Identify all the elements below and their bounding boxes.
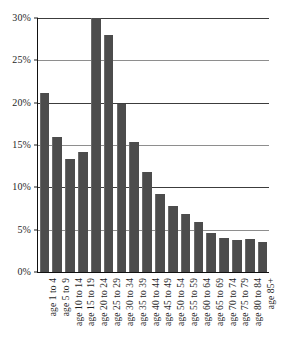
bar[interactable] <box>129 142 139 272</box>
x-tick: age 35 to 39 <box>129 278 140 364</box>
y-tick-label: 0% <box>17 267 31 277</box>
bars-series <box>38 18 269 272</box>
x-axis-line <box>37 272 269 273</box>
x-tick: age 5 to 9 <box>52 278 63 364</box>
x-tick: age 25 to 29 <box>103 278 114 364</box>
x-tick: age 20 to 24 <box>90 278 101 364</box>
bar[interactable] <box>91 18 101 272</box>
y-tick-label: 25% <box>12 55 31 65</box>
x-axis: age 1 to 4age 5 to 9age 10 to 14age 15 t… <box>38 276 269 364</box>
y-tick-label: 20% <box>12 98 31 108</box>
x-tick: age 60 to 64 <box>193 278 204 364</box>
plot-area <box>38 18 269 272</box>
x-tick: age 70 to 74 <box>219 278 230 364</box>
x-tick: age 30 to 34 <box>116 278 127 364</box>
bar-chart: 0%5%10%15%20%25%30% age 1 to 4age 5 to 9… <box>0 0 284 364</box>
x-tick: age 85+ <box>257 278 268 364</box>
bar[interactable] <box>206 233 216 272</box>
y-tick-label: 5% <box>17 225 31 235</box>
x-tick: age 15 to 19 <box>77 278 88 364</box>
bar[interactable] <box>194 222 204 272</box>
y-tick-label: 15% <box>12 140 31 150</box>
bar[interactable] <box>219 238 229 272</box>
bar[interactable] <box>52 137 62 272</box>
bar[interactable] <box>65 159 75 272</box>
x-tick: age 10 to 14 <box>65 278 76 364</box>
bar[interactable] <box>181 214 191 272</box>
x-tick: age 55 to 59 <box>180 278 191 364</box>
x-tick: age 40 to 44 <box>142 278 153 364</box>
bar[interactable] <box>258 242 268 272</box>
x-tick: age 75 to 79 <box>231 278 242 364</box>
bar[interactable] <box>78 152 88 272</box>
x-tick: age 45 to 49 <box>154 278 165 364</box>
bar[interactable] <box>168 206 178 272</box>
x-tick: age 50 to 54 <box>167 278 178 364</box>
x-tick-label: age 85+ <box>266 278 276 309</box>
bar[interactable] <box>40 93 50 272</box>
x-tick: age 1 to 4 <box>39 278 50 364</box>
bar[interactable] <box>155 194 165 272</box>
bar[interactable] <box>245 239 255 272</box>
x-tick: age 65 to 69 <box>206 278 217 364</box>
y-tick-label: 10% <box>12 182 31 192</box>
bar[interactable] <box>232 240 242 272</box>
y-axis: 0%5%10%15%20%25%30% <box>0 0 38 364</box>
bar[interactable] <box>117 104 127 272</box>
y-tick-label: 30% <box>12 13 31 23</box>
bar[interactable] <box>104 35 114 272</box>
x-tick: age 80 to 84 <box>244 278 255 364</box>
bar[interactable] <box>142 172 152 272</box>
